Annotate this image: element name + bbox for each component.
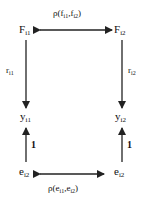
top-correlation-label: ρ(fi1,fi2) xyxy=(53,9,81,19)
node-F-i1: Fi1 xyxy=(19,24,31,37)
label-part: ) xyxy=(78,8,81,18)
node-e-left: ei2 xyxy=(19,166,29,179)
node-sub: i2 xyxy=(121,116,126,124)
label-sub: i1 xyxy=(9,70,14,76)
label-sub: i2 xyxy=(131,70,136,76)
node-y-i1: yi1 xyxy=(20,111,31,124)
node-sub: i1 xyxy=(26,116,31,124)
node-y-i2: yi2 xyxy=(115,111,126,124)
left-error-weight: 1 xyxy=(31,140,36,150)
node-sub: i2 xyxy=(119,171,124,179)
node-sub: i1 xyxy=(25,29,30,37)
label-part: ρ(e xyxy=(48,183,59,193)
left-loading-label: ri1 xyxy=(6,66,14,76)
right-loading-label: ri2 xyxy=(128,66,136,76)
node-e-right: ei2 xyxy=(114,166,124,179)
label-part: ) xyxy=(75,183,78,193)
node-sub: i2 xyxy=(24,171,29,179)
bottom-correlation-label: ρ(ei1,ei2) xyxy=(48,184,78,194)
label-part: ρ(f xyxy=(53,8,64,18)
node-F-i2: Fi2 xyxy=(114,24,126,37)
right-error-weight: 1 xyxy=(127,140,132,150)
node-sub: i2 xyxy=(120,29,125,37)
